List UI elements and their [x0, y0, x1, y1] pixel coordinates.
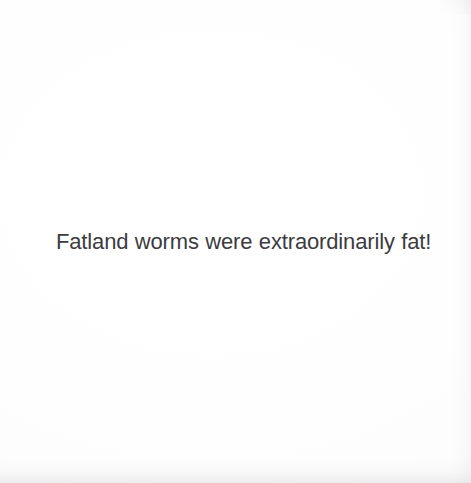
- body-text-line: Fatland worms were extraordinarily fat!: [56, 229, 431, 255]
- scan-edge-shadow-right: [451, 0, 471, 483]
- scanned-page: Fatland worms were extraordinarily fat!: [0, 0, 471, 483]
- scan-artifact-top-right: [441, 0, 471, 14]
- scan-edge-shadow-bottom: [0, 457, 471, 483]
